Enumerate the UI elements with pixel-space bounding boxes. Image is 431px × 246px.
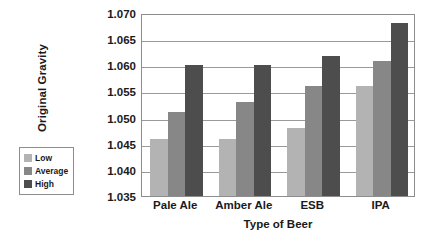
bar-high-esb[interactable]: [322, 56, 340, 196]
x-tick-label: ESB: [300, 199, 324, 211]
bar-group: [219, 15, 272, 196]
bar-chart: Original Gravity 1.0351.0401.0451.0501.0…: [0, 0, 431, 246]
bar-low-ipa[interactable]: [356, 86, 374, 196]
y-tick-label: 1.055: [107, 86, 136, 98]
bar-average-ipa[interactable]: [373, 61, 391, 196]
y-tick-label: 1.040: [107, 165, 136, 177]
bar-high-pale-ale[interactable]: [185, 65, 203, 196]
legend-item-low[interactable]: Low: [24, 152, 68, 164]
legend-swatch-icon: [24, 167, 32, 175]
plot-area: [141, 14, 415, 197]
bar-average-amber-ale[interactable]: [236, 102, 254, 196]
bar-low-pale-ale[interactable]: [150, 139, 168, 197]
bar-group: [356, 15, 409, 196]
bar-group: [287, 15, 340, 196]
legend-label: Low: [35, 154, 52, 163]
y-tick-label: 1.045: [107, 139, 136, 151]
bar-low-esb[interactable]: [287, 128, 305, 196]
legend-item-high[interactable]: High: [24, 178, 68, 190]
y-axis-tick-labels: 1.0351.0401.0451.0501.0551.0601.0651.070: [96, 14, 139, 197]
bar-average-pale-ale[interactable]: [168, 112, 186, 196]
bar-high-ipa[interactable]: [391, 23, 409, 196]
bar-average-esb[interactable]: [305, 86, 323, 196]
y-tick-label: 1.065: [107, 34, 136, 46]
legend-swatch-icon: [24, 154, 32, 162]
x-axis-tick-labels: Pale AleAmber AleESBIPA: [141, 199, 415, 215]
legend-item-average[interactable]: Average: [24, 165, 68, 177]
x-tick-label: Amber Ale: [215, 199, 272, 211]
legend: LowAverageHigh: [19, 147, 74, 195]
y-tick-label: 1.035: [107, 191, 136, 203]
y-tick-label: 1.050: [107, 113, 136, 125]
y-axis-title: Original Gravity: [36, 13, 48, 163]
legend-label: High: [35, 180, 54, 189]
bar-group: [150, 15, 203, 196]
legend-swatch-icon: [24, 180, 32, 188]
bar-low-amber-ale[interactable]: [219, 139, 237, 197]
y-tick-label: 1.060: [107, 60, 136, 72]
x-axis-title: Type of Beer: [141, 218, 415, 230]
bars-layer: [142, 15, 414, 196]
bar-high-amber-ale[interactable]: [254, 65, 272, 196]
y-tick-label: 1.070: [107, 8, 136, 20]
x-tick-label: IPA: [372, 199, 390, 211]
legend-label: Average: [35, 167, 68, 176]
x-tick-label: Pale Ale: [153, 199, 197, 211]
